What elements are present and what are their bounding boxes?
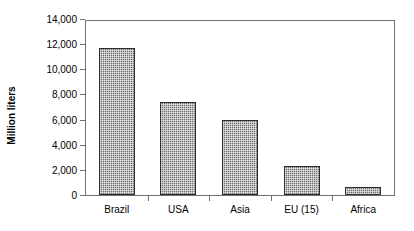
- y-tick-label: 0: [71, 190, 77, 202]
- y-tick-label: 2,000: [52, 165, 77, 177]
- bar-slot-asia: [209, 21, 271, 195]
- bar-brazil: [99, 48, 135, 195]
- bar-slot-brazil: [86, 21, 148, 195]
- y-tick-14000: 14,000: [0, 14, 85, 26]
- y-tick-label: 12,000: [46, 39, 77, 51]
- bar-usa: [160, 102, 196, 195]
- bar-asia: [222, 120, 258, 195]
- y-tick-12000: 12,000: [0, 39, 85, 51]
- y-tick-0: 0: [0, 190, 85, 202]
- x-label-eu-15: EU (15): [271, 203, 333, 217]
- y-tick-2000: 2,000: [0, 165, 85, 177]
- x-label-africa: Africa: [332, 203, 394, 217]
- bar-slot-usa: [148, 21, 210, 195]
- bar-slot-eu15: [271, 21, 333, 195]
- x-tick-mark: [148, 196, 149, 201]
- y-tick-10000: 10,000: [0, 64, 85, 76]
- y-tick-6000: 6,000: [0, 115, 85, 127]
- bars-layer: [86, 21, 394, 195]
- y-tick-label: 4,000: [52, 140, 77, 152]
- x-tick-mark: [209, 196, 210, 201]
- y-axis: 14,000 12,000 10,000 8,000 6,000 4,000 2…: [0, 0, 85, 231]
- y-tick-4000: 4,000: [0, 140, 85, 152]
- y-tick-label: 10,000: [46, 64, 77, 76]
- x-label-usa: USA: [148, 203, 210, 217]
- y-tick-label: 14,000: [46, 14, 77, 26]
- x-label-asia: Asia: [209, 203, 271, 217]
- bar-africa: [345, 187, 381, 195]
- x-tick-mark: [271, 196, 272, 201]
- bar-chart: Million liters 14,000 12,000 10,000 8,00…: [0, 0, 414, 231]
- bar-eu-15: [284, 166, 320, 195]
- y-tick-8000: 8,000: [0, 89, 85, 101]
- y-tick-label: 8,000: [52, 89, 77, 101]
- x-label-brazil: Brazil: [86, 203, 148, 217]
- y-tick-label: 6,000: [52, 115, 77, 127]
- bar-slot-africa: [332, 21, 394, 195]
- x-tick-mark: [332, 196, 333, 201]
- x-axis-labels: Brazil USA Asia EU (15) Africa: [86, 203, 394, 223]
